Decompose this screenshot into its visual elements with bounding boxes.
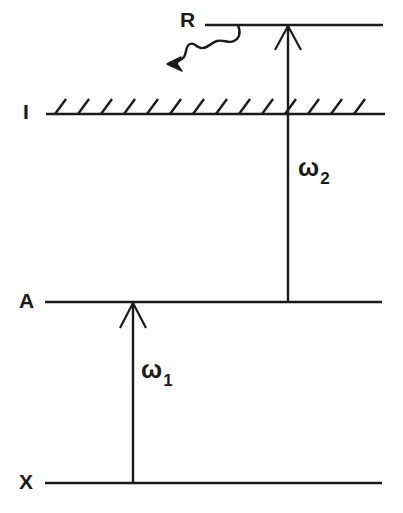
omega-glyph: ω [298, 153, 319, 181]
omega-subscript: 2 [320, 169, 329, 188]
emission-wavy-arrow [167, 25, 240, 71]
omega-glyph: ω [141, 355, 162, 383]
transition-label-omega1: ω1 [141, 357, 172, 382]
level-label-X: X [19, 471, 33, 492]
omega-subscript: 1 [163, 371, 172, 390]
energy-level-diagram: R I A X ω2 ω1 [0, 0, 403, 513]
level-label-I: I [23, 101, 29, 122]
level-label-R: R [180, 9, 195, 30]
level-label-A: A [19, 290, 34, 311]
diagram-canvas [0, 0, 403, 513]
hatch-marks-I [55, 99, 365, 114]
transition-label-omega2: ω2 [298, 155, 329, 180]
transition-arrow-omega1 [120, 302, 146, 483]
